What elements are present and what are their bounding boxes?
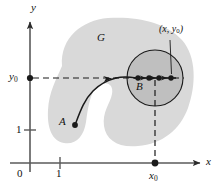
- y-zero-axis-dot: [27, 75, 33, 81]
- x-zero-label: x0: [149, 170, 158, 182]
- x-zero-axis-dot: [152, 160, 159, 167]
- point-a-dot: [72, 122, 78, 128]
- x-zero-label-sub: 0: [154, 174, 158, 183]
- y-zero-label-sub: 0: [14, 75, 18, 84]
- origin-label: 0: [17, 168, 23, 179]
- point-b-label: B: [136, 81, 143, 92]
- region-g-label: G: [97, 32, 105, 43]
- point-a-label: A: [59, 116, 66, 127]
- coord-close-paren: ): [180, 23, 183, 34]
- figure-canvas: y x 0 1 1 y0 x0 G A B (x, y0): [0, 0, 223, 190]
- y-tick-label-1: 1: [16, 124, 22, 135]
- path-dot: [146, 75, 151, 80]
- coordinate-label: (x, y0): [159, 24, 183, 35]
- y-zero-label: y0: [9, 71, 18, 83]
- x-tick-label-1: 1: [56, 168, 62, 179]
- diagram-svg: [0, 0, 223, 190]
- path-dot: [168, 75, 173, 80]
- path-dot: [156, 75, 161, 80]
- x-axis-label: x: [206, 156, 211, 167]
- y-axis-label: y: [31, 2, 36, 13]
